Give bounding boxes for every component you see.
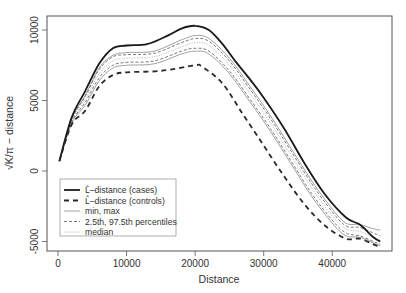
y-tick-label: 0 [29,168,40,174]
x-tick-label: 40000 [318,258,346,269]
y-axis: -50000500010000 [29,16,47,255]
legend-label: L̂–distance (cases) [85,185,157,195]
y-tick-label-group: 5000 [29,89,40,112]
y-tick-label-group: -5000 [29,228,40,254]
x-axis: 010000200003000040000 [55,251,346,269]
y-axis-label-text: √K/π − distance [3,96,15,170]
legend-label: 2.5th, 97.5th percentiles [85,217,177,227]
y-axis-label: √K/π − distance [3,96,15,170]
legend-label: L̂–distance (controls) [85,195,165,205]
x-tick-label: 0 [55,258,61,269]
y-tick-label-group: 0 [29,168,40,174]
x-tick-label: 10000 [113,258,141,269]
y-tick-label: -5000 [29,228,40,254]
x-axis-label: Distance [199,273,240,285]
y-tick-label-group: 10000 [29,16,40,44]
legend: L̂–distance (cases)L̂–distance (controls… [60,179,177,237]
legend-label: min, max [85,206,121,216]
legend-label: median [85,227,113,237]
y-tick-label: 10000 [29,16,40,44]
x-tick-label: 30000 [250,258,278,269]
chart: 010000200003000040000 -50000500010000 Di… [0,0,406,293]
y-tick-label: 5000 [29,89,40,112]
x-tick-label: 20000 [181,258,209,269]
